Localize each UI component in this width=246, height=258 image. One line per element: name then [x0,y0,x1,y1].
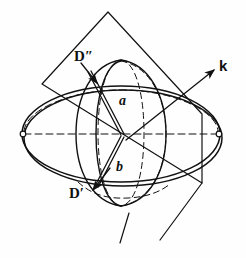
label-semi-axis-b: b [116,160,123,174]
cut-plane [42,12,202,243]
plane-edge-extension-left [120,213,129,243]
marker-left [20,131,26,137]
marker-right [216,131,222,137]
diagram-svg [0,0,246,258]
plane-edge-extension-right [160,183,202,240]
d-double-prime-arrow [81,63,97,83]
label-k: k [219,58,227,73]
label-semi-axis-a: a [119,94,126,108]
figure-canvas: D″ D′ k a b [0,0,246,258]
label-d-double-prime: D″ [74,49,93,64]
label-d-prime: D′ [69,186,84,201]
